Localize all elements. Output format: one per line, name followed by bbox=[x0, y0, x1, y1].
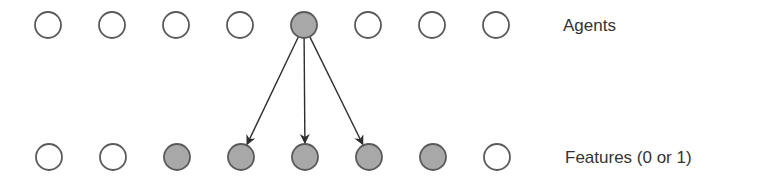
agent-node-3-empty bbox=[163, 12, 189, 38]
agent-node-4-empty bbox=[227, 12, 253, 38]
feature-node-2-empty bbox=[100, 144, 126, 170]
agent-node-5-filled bbox=[291, 12, 317, 38]
agent-node-1-empty bbox=[35, 12, 61, 38]
agents-label: Agents bbox=[563, 16, 616, 35]
feature-node-5-filled bbox=[292, 144, 318, 170]
feature-node-3-filled bbox=[164, 144, 190, 170]
feature-node-1-empty bbox=[36, 144, 62, 170]
agents-features-diagram: Agents Features (0 or 1) bbox=[0, 0, 775, 180]
features-label: Features (0 or 1) bbox=[565, 148, 692, 167]
agent-node-6-empty bbox=[355, 12, 381, 38]
arrow-1 bbox=[247, 37, 298, 145]
agent-node-7-empty bbox=[419, 12, 445, 38]
agent-node-2-empty bbox=[99, 12, 125, 38]
features-row bbox=[36, 144, 510, 170]
arrow-2 bbox=[304, 38, 305, 143]
arrow-3 bbox=[310, 37, 363, 145]
feature-node-6-filled bbox=[356, 144, 382, 170]
agents-row bbox=[35, 12, 509, 38]
agent-node-8-empty bbox=[483, 12, 509, 38]
feature-node-8-empty bbox=[484, 144, 510, 170]
arrows bbox=[247, 37, 363, 145]
feature-node-4-filled bbox=[228, 144, 254, 170]
feature-node-7-filled bbox=[420, 144, 446, 170]
